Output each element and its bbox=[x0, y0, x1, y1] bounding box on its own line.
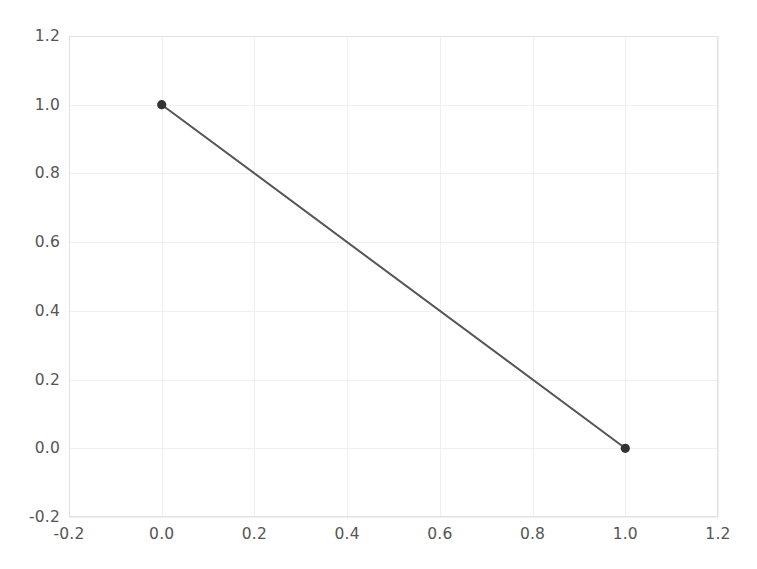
x-tick-label: 1.2 bbox=[705, 525, 730, 543]
y-tick-label: 0.0 bbox=[0, 439, 60, 457]
y-tick-label: 1.0 bbox=[0, 96, 60, 114]
y-tick-label: -0.2 bbox=[0, 508, 60, 526]
data-point-marker bbox=[157, 100, 166, 109]
y-tick-label: 0.8 bbox=[0, 164, 60, 182]
gridline-vertical bbox=[718, 36, 719, 517]
data-series-layer bbox=[69, 36, 718, 517]
y-tick-label: 0.4 bbox=[0, 302, 60, 320]
data-point-marker bbox=[621, 444, 630, 453]
x-tick-label: 1.0 bbox=[613, 525, 638, 543]
x-tick-label: 0.0 bbox=[149, 525, 174, 543]
y-tick-label: 0.2 bbox=[0, 371, 60, 389]
gridline-horizontal bbox=[69, 517, 718, 518]
x-tick-label: -0.2 bbox=[53, 525, 84, 543]
figure-canvas: -0.20.00.20.40.60.81.01.2 -0.20.00.20.40… bbox=[0, 0, 757, 569]
y-tick-label: 0.6 bbox=[0, 233, 60, 251]
x-tick-label: 0.2 bbox=[242, 525, 267, 543]
x-tick-label: 0.6 bbox=[427, 525, 452, 543]
y-tick-label: 1.2 bbox=[0, 27, 60, 45]
x-tick-label: 0.4 bbox=[335, 525, 360, 543]
plot-axes bbox=[69, 36, 718, 517]
data-line bbox=[162, 105, 626, 449]
x-tick-label: 0.8 bbox=[520, 525, 545, 543]
